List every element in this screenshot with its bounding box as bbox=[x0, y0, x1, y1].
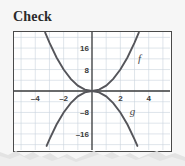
curve-labels: fg bbox=[130, 52, 143, 118]
page-title: Check bbox=[13, 9, 52, 25]
worksheet-page: Check –4–224168–8–16 fg bbox=[0, 0, 185, 166]
x-tick-label: 2 bbox=[118, 94, 123, 103]
coordinate-plane: –4–224168–8–16 fg bbox=[14, 32, 170, 150]
curve-label-g: g bbox=[130, 105, 136, 117]
x-tick-label: –4 bbox=[31, 94, 40, 103]
y-tick-label: –16 bbox=[76, 130, 90, 139]
graph-figure: –4–224168–8–16 fg bbox=[13, 31, 172, 152]
y-tick-label: –8 bbox=[80, 108, 89, 117]
y-tick-label: 8 bbox=[85, 66, 90, 75]
x-tick-label: 4 bbox=[147, 94, 152, 103]
x-tick-label: –2 bbox=[59, 94, 68, 103]
torn-paper-edge bbox=[0, 146, 185, 166]
curve-label-f: f bbox=[138, 52, 143, 64]
y-tick-label: 16 bbox=[80, 44, 89, 53]
